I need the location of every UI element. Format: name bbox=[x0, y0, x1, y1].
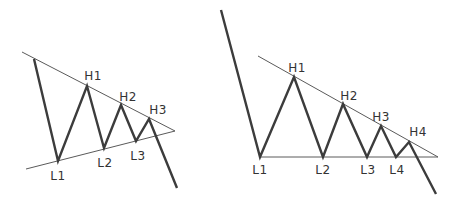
label-h2: H2 bbox=[340, 90, 358, 102]
label-h1: H1 bbox=[84, 70, 102, 82]
label-l3: L3 bbox=[360, 164, 375, 176]
label-h3: H3 bbox=[372, 111, 390, 123]
upper-trendline bbox=[22, 52, 175, 131]
label-l1: L1 bbox=[50, 170, 65, 182]
label-h2: H2 bbox=[119, 91, 137, 103]
diagram-canvas bbox=[0, 0, 452, 207]
label-l1: L1 bbox=[252, 164, 267, 176]
label-l2: L2 bbox=[97, 157, 112, 169]
label-h3: H3 bbox=[149, 104, 167, 116]
label-h4: H4 bbox=[409, 126, 427, 138]
label-l2: L2 bbox=[315, 164, 330, 176]
label-l4: L4 bbox=[389, 164, 404, 176]
label-h1: H1 bbox=[288, 62, 306, 74]
label-l3: L3 bbox=[130, 150, 145, 162]
upper-trendline bbox=[258, 56, 438, 157]
